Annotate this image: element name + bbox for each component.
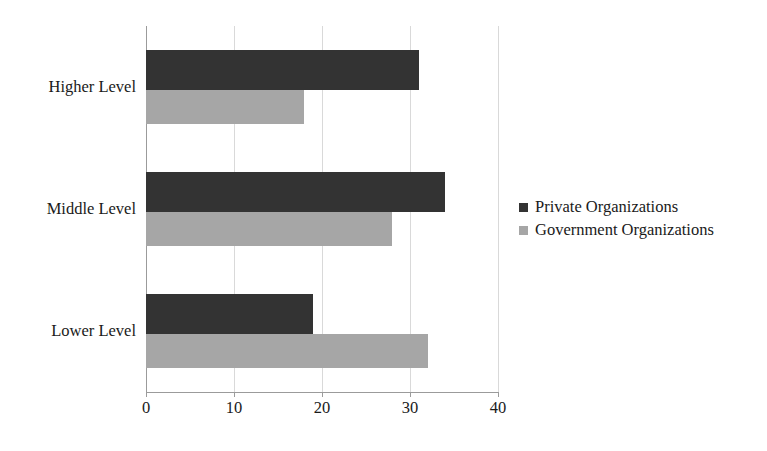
bar-lower-level-government-organizations bbox=[146, 334, 428, 368]
tickmark-10 bbox=[234, 392, 235, 397]
bar-higher-level-private-organizations bbox=[146, 50, 419, 90]
legend-label: Government Organizations bbox=[535, 222, 714, 239]
bar-chart-figure: Higher LevelMiddle LevelLower Level 0102… bbox=[0, 0, 767, 451]
x-tick-label-20: 20 bbox=[314, 400, 331, 417]
gridline-40 bbox=[498, 26, 499, 392]
category-label-higher-level: Higher Level bbox=[48, 79, 136, 96]
bar-lower-level-private-organizations bbox=[146, 294, 313, 334]
x-tick-label-0: 0 bbox=[142, 400, 150, 417]
x-tick-label-30: 30 bbox=[402, 400, 419, 417]
tickmark-30 bbox=[410, 392, 411, 397]
tickmark-40 bbox=[498, 392, 499, 397]
legend-swatch-government bbox=[519, 226, 528, 235]
legend-swatch-private bbox=[519, 203, 528, 212]
legend-label: Private Organizations bbox=[535, 199, 678, 216]
legend: Private OrganizationsGovernment Organiza… bbox=[519, 196, 714, 242]
category-axis-labels: Higher LevelMiddle LevelLower Level bbox=[0, 0, 136, 451]
category-label-lower-level: Lower Level bbox=[51, 323, 136, 340]
legend-item-private-organizations: Private Organizations bbox=[519, 196, 714, 219]
tickmark-20 bbox=[322, 392, 323, 397]
plot-area bbox=[146, 26, 498, 392]
legend-item-government-organizations: Government Organizations bbox=[519, 219, 714, 242]
category-label-middle-level: Middle Level bbox=[47, 201, 136, 218]
x-tick-label-10: 10 bbox=[226, 400, 243, 417]
bar-middle-level-government-organizations bbox=[146, 212, 392, 246]
x-tick-label-40: 40 bbox=[490, 400, 507, 417]
tickmark-0 bbox=[146, 392, 147, 397]
bar-middle-level-private-organizations bbox=[146, 172, 445, 212]
bar-higher-level-government-organizations bbox=[146, 90, 304, 124]
